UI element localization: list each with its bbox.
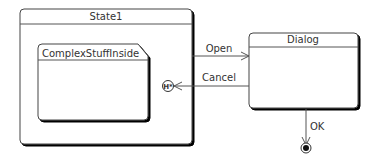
svg-text:H*: H* [163, 83, 173, 91]
transition-ok[interactable]: OK [302, 109, 325, 145]
complex-label: ComplexStuffInside [42, 48, 139, 59]
ok-label: OK [310, 121, 325, 132]
state-complex-stuff-inside[interactable]: ComplexStuffInside [38, 44, 148, 120]
cancel-label: Cancel [202, 72, 236, 83]
state-dialog[interactable]: Dialog [249, 33, 358, 108]
open-label: Open [206, 43, 233, 54]
transition-open[interactable]: Open [192, 43, 249, 60]
state1-label: State1 [90, 11, 123, 22]
final-state-icon[interactable] [301, 143, 311, 153]
state-diagram: State1 ComplexStuffInside H* Dialog Open… [0, 0, 382, 164]
deep-history-icon[interactable]: H* [163, 81, 174, 92]
dialog-label: Dialog [287, 34, 319, 45]
